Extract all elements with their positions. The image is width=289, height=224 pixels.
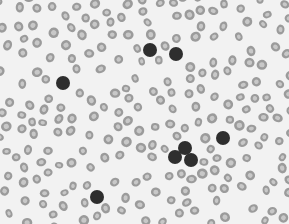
nucleated-cell — [216, 131, 230, 145]
nucleated-cell — [184, 153, 198, 167]
nucleated-cell — [143, 43, 157, 57]
blood-smear-micrograph — [0, 0, 289, 224]
red-blood-cell — [48, 2, 57, 11]
nucleated-cell — [90, 190, 104, 204]
nucleated-cell — [168, 150, 182, 164]
nucleated-cell — [169, 47, 183, 61]
micrograph-canvas — [0, 0, 289, 224]
nucleated-cell — [56, 76, 70, 90]
